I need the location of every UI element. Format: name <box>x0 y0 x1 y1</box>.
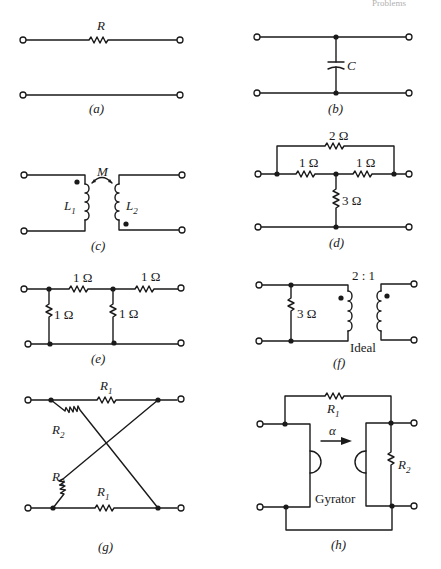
terminal-in-bottom <box>254 90 260 96</box>
terminal-in-bottom <box>256 338 262 344</box>
series1-label: 1 Ω <box>73 270 92 285</box>
terminal-out-bottom <box>177 92 183 98</box>
terminal-in-bottom <box>255 224 261 230</box>
r1-label: R1 <box>326 401 339 419</box>
junction-node <box>111 340 116 345</box>
caption-f: (f) <box>333 355 345 370</box>
gyration-constant-label: α <box>329 423 337 438</box>
junction-node <box>155 397 160 402</box>
shunt2-label: 1 Ω <box>119 306 138 321</box>
junction-node <box>50 505 55 510</box>
junction-node <box>282 421 287 426</box>
dot-mark-l1 <box>74 179 79 184</box>
junction-node <box>288 282 293 287</box>
junction-node <box>46 286 51 291</box>
terminal-in-top <box>21 172 27 178</box>
caption-b: (b) <box>328 101 343 116</box>
header-fragment: Problems <box>372 0 406 8</box>
primary-top-wire <box>262 285 348 291</box>
secondary-top-wire <box>381 284 411 291</box>
capacitor-label: C <box>347 58 356 73</box>
bridge-resistor-label: 2 Ω <box>329 128 348 143</box>
series-resistor-1ohm-left <box>277 171 336 177</box>
secondary-coil <box>377 291 381 331</box>
circuit-a: R (a) <box>20 18 183 116</box>
caption-h: (h) <box>331 537 346 552</box>
terminal-out-bottom <box>406 90 412 96</box>
junction-node <box>274 171 279 176</box>
primary-bottom-wire <box>262 331 348 341</box>
series-resistor-1ohm-right <box>336 171 394 177</box>
shunt1-label: 1 Ω <box>54 307 73 322</box>
bridge-resistor-2ohm <box>277 143 394 174</box>
primary-coil <box>348 291 352 331</box>
resistor-label: R <box>96 18 105 33</box>
circuit-c: M L1 L2 (c) <box>21 164 185 253</box>
series-resistor-2 <box>113 286 178 292</box>
dot-mark-l2 <box>123 221 128 226</box>
secondary-bottom-wire <box>381 331 411 340</box>
junction-node <box>110 286 115 291</box>
terminal-out-top <box>406 171 412 177</box>
gyrator-right-semicircle <box>355 451 366 473</box>
terminal-out-top <box>177 37 183 43</box>
terminal-in-bottom <box>257 504 263 510</box>
terminal-out-top <box>411 420 417 426</box>
circuit-figure: Problems R (a) C (b) <box>0 0 441 569</box>
dot-mark-primary <box>338 295 343 300</box>
r1-bottom-label: R1 <box>96 484 109 502</box>
circuit-f: 3 Ω 2 : 1 Ideal (f) <box>256 268 417 370</box>
terminal-in-top <box>21 286 27 292</box>
primary-bottom-wire <box>27 220 85 231</box>
shunt-resistor-3ohm <box>333 174 339 227</box>
terminal-in-top <box>254 34 260 40</box>
terminal-out-top <box>179 172 185 178</box>
terminal-in-bottom <box>20 92 26 98</box>
right-resistor-label: 1 Ω <box>356 155 375 170</box>
turns-ratio-label: 2 : 1 <box>352 268 375 283</box>
gyrator-left-port <box>285 424 310 507</box>
caption-g: (g) <box>98 539 113 554</box>
terminal-out-top <box>178 396 184 402</box>
terminal-in-top <box>25 397 31 403</box>
inductor-l1-label: L1 <box>63 198 76 216</box>
terminal-in-top <box>20 37 26 43</box>
r2-upper-label: R2 <box>51 422 65 440</box>
ideal-label: Ideal <box>350 340 376 355</box>
terminal-in-bottom <box>25 341 31 347</box>
r2-label: R2 <box>397 457 411 475</box>
caption-a: (a) <box>89 101 104 116</box>
series-resistor-1 <box>49 286 113 292</box>
circuit-b: C (b) <box>254 34 412 116</box>
mutual-inductance-label: M <box>96 164 109 179</box>
series-resistor-r <box>26 37 177 43</box>
circuit-e: 1 Ω 1 Ω 1 Ω 1 Ω (e) <box>21 269 184 366</box>
terminal-out-bottom <box>179 227 185 233</box>
inductor-l2-coil <box>115 184 119 220</box>
terminal-out-bottom <box>406 224 412 230</box>
junction-node <box>48 397 53 402</box>
terminal-out-top <box>406 34 412 40</box>
junction-node <box>288 338 293 343</box>
caption-e: (e) <box>91 351 105 366</box>
shunt-resistor-label: 3 Ω <box>297 306 316 321</box>
junction-node <box>333 34 338 39</box>
junction-node <box>388 420 393 425</box>
gyrator-left-semicircle <box>310 451 321 473</box>
circuit-g: R1 R2 R2 R1 (g) <box>25 378 184 554</box>
r1-top-label: R1 <box>99 378 112 396</box>
dot-mark-secondary <box>384 293 389 298</box>
left-resistor-label: 1 Ω <box>299 155 318 170</box>
junction-node <box>333 171 338 176</box>
terminal-out-bottom <box>178 505 184 511</box>
shunt-resistor-2 <box>110 289 116 343</box>
junction-node <box>333 224 338 229</box>
terminal-out-bottom <box>411 337 417 343</box>
r2-lower-label: R2 <box>51 469 65 487</box>
junction-node <box>155 505 160 510</box>
junction-node <box>283 504 288 509</box>
inductor-l2-label: L2 <box>125 198 138 216</box>
inductor-l1-coil <box>85 184 89 220</box>
shunt-resistor-3ohm <box>288 285 294 341</box>
terminal-in-bottom <box>21 228 27 234</box>
